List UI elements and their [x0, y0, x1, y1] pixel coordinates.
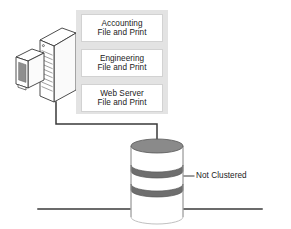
service-box-engineering[interactable]: Engineering File and Print [81, 49, 163, 77]
service-box-accounting[interactable]: Accounting File and Print [81, 14, 163, 42]
service-box-web-server[interactable]: Web Server File and Print [81, 84, 163, 112]
server-tower-icon [40, 28, 76, 102]
service-title: Engineering [100, 54, 144, 63]
service-subtitle: File and Print [98, 98, 147, 107]
service-subtitle: File and Print [98, 63, 147, 72]
storage-label: Not Clustered [196, 171, 247, 180]
disk-stack-icon [131, 139, 183, 224]
service-title: Accounting [101, 19, 142, 28]
service-title: Web Server [100, 89, 144, 98]
monitor-screen [19, 62, 26, 82]
diagram-canvas: Accounting File and Print Engineering Fi… [0, 0, 291, 229]
service-subtitle: File and Print [98, 28, 147, 37]
disk-top-platter [131, 139, 183, 153]
disk-stack-body [131, 146, 183, 224]
